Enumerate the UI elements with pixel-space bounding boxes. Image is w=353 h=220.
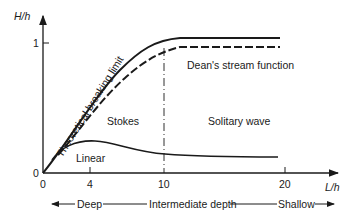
dean-label: Dean's stream function bbox=[187, 59, 294, 71]
solitary-label: Solitary wave bbox=[208, 115, 271, 127]
x-tick-0: 0 bbox=[40, 178, 46, 190]
stokes-label: Stokes bbox=[107, 115, 139, 127]
x-tick-4: 4 bbox=[87, 178, 93, 190]
x-axis-label: L/h bbox=[325, 181, 340, 193]
y-tick-1: 1 bbox=[33, 37, 39, 49]
wave-theory-diagram: H/h L/h 1 0 0 4 10 20 Theoretical breaki… bbox=[0, 0, 353, 220]
breaking-limit-label: Theoretical breaking limit bbox=[54, 54, 126, 159]
intermediate-label: Intermediate depth bbox=[149, 198, 237, 210]
y-axis-label: H/h bbox=[14, 10, 31, 22]
shallow-label: Shallow bbox=[278, 198, 315, 210]
x-tick-10: 10 bbox=[158, 178, 170, 190]
y-tick-0: 0 bbox=[33, 167, 39, 179]
linear-label: Linear bbox=[76, 152, 106, 164]
deep-label: Deep bbox=[77, 198, 102, 210]
x-tick-20: 20 bbox=[279, 178, 291, 190]
